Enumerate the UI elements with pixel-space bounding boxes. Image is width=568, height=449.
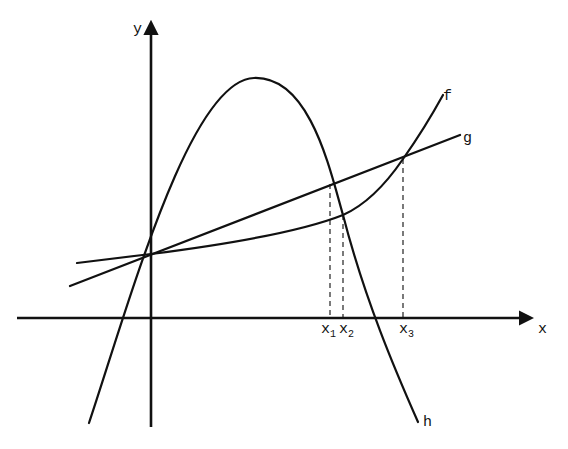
curve-g [70, 135, 460, 286]
x3-label: x [399, 321, 408, 338]
curve-f [77, 95, 443, 263]
curve-h [89, 78, 418, 423]
x3-subscript: 3 [408, 329, 414, 340]
curve-g-label: g [463, 130, 472, 147]
x1-label: x [321, 321, 330, 338]
x2-subscript: 2 [348, 329, 354, 340]
x1-subscript: 1 [330, 329, 336, 340]
x-axis-label: x [538, 321, 547, 338]
curve-f-label: f [443, 88, 452, 105]
y-axis-label: y [133, 21, 142, 38]
curve-h-label: h [423, 414, 432, 431]
function-graph-diagram: y x f g h x 1 x 2 x 3 [0, 0, 568, 449]
x2-label: x [339, 321, 348, 338]
